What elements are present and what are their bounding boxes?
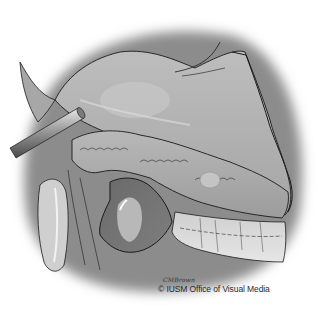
artist-signature: CMBrown xyxy=(163,276,195,283)
surgical-illustration xyxy=(0,0,321,314)
copyright-notice: © IUSM Office of Visual Media xyxy=(158,284,270,294)
illustration-canvas: CMBrown © IUSM Office of Visual Media xyxy=(0,0,321,314)
